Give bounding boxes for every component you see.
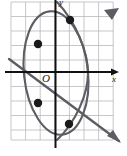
intersection-point [34,99,42,107]
intersection-point [65,120,73,128]
origin-label: O [42,72,50,84]
intersection-point [34,40,42,48]
line-arrow-upper-right-icon [104,8,119,20]
line-arrow-lower-right-icon [107,130,121,143]
figure-svg: O x y [0,0,127,156]
y-axis-label: y [58,0,63,7]
intersection-point [66,16,74,24]
x-axis-label: x [111,74,116,84]
coordinate-plane-figure: O x y [0,0,127,156]
